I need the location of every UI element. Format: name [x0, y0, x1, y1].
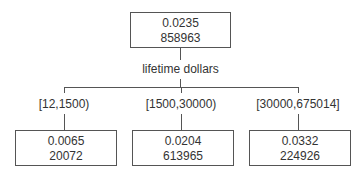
root-rate: 0.0235 [131, 16, 230, 31]
child-range-label: [30000,675014] [248, 97, 348, 111]
child-node: 0.0204 613965 [132, 130, 234, 166]
child-rate: 0.0204 [133, 134, 233, 149]
child-count: 20072 [16, 149, 116, 164]
child-range-label: [1500,30000) [131, 97, 231, 111]
child-node: 0.0065 20072 [15, 130, 117, 166]
connector [64, 114, 65, 130]
child-range-label: [12,1500) [14, 97, 114, 111]
connector [298, 114, 299, 130]
connector [298, 87, 299, 93]
split-label: lifetime dollars [130, 62, 231, 76]
root-count: 858963 [131, 31, 230, 46]
child-rate: 0.0065 [16, 134, 116, 149]
connector [180, 48, 181, 60]
connector [64, 87, 65, 93]
child-count: 613965 [133, 149, 233, 164]
connector [181, 87, 182, 93]
child-node: 0.0332 224926 [249, 130, 351, 166]
child-count: 224926 [250, 149, 350, 164]
connector [181, 114, 182, 130]
root-node: 0.0235 858963 [130, 12, 231, 48]
child-rate: 0.0332 [250, 134, 350, 149]
